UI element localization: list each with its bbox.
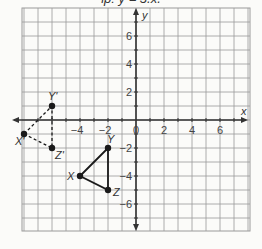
vertex-label: Z	[112, 186, 121, 198]
x-axis-arrow-right-icon	[241, 117, 248, 123]
x-axis-arrow-left-icon	[12, 117, 19, 123]
vertex-label: Y'	[48, 90, 58, 102]
y-axis-arrow-down-icon	[133, 224, 139, 231]
vertex-point	[49, 103, 55, 109]
vertex-point	[105, 187, 111, 193]
vertex-label: X'	[14, 135, 25, 147]
x-tick-label: −4	[71, 124, 84, 136]
x-tick-label: 2	[161, 124, 167, 136]
y-tick-label: −2	[119, 142, 132, 154]
vertex-label: Y	[107, 133, 115, 145]
y-tick-label: −4	[119, 170, 132, 182]
vertex-label: Z'	[54, 149, 65, 161]
x-tick-label: 4	[189, 124, 195, 136]
y-tick-label: 4	[126, 58, 132, 70]
y-axis-label: y	[141, 9, 149, 21]
x-axis-label: x	[240, 105, 247, 117]
x-tick-label: 6	[217, 124, 223, 136]
y-axis-arrow-up-icon	[133, 8, 139, 15]
coordinate-plane: yx −4−20246642−2−4−6 XYZX'Y'Z'	[0, 0, 262, 249]
y-tick-label: 6	[126, 30, 132, 42]
vertex-point	[105, 145, 111, 151]
vertex-point	[77, 173, 83, 179]
y-tick-label: 2	[126, 86, 132, 98]
x-tick-label: 0	[133, 124, 139, 136]
vertex-label: X	[66, 170, 75, 182]
y-tick-label: −6	[119, 198, 132, 210]
